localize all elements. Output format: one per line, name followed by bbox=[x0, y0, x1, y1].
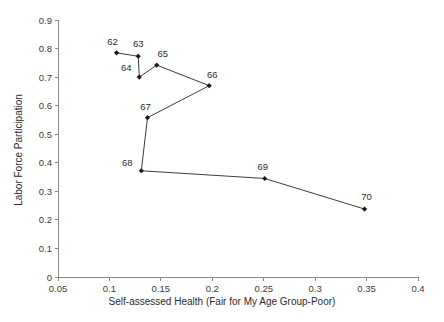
x-axis-title: Self-assessed Health (Fair for My Age Gr… bbox=[109, 296, 336, 307]
data-point-label: 69 bbox=[257, 161, 268, 172]
x-axis: 0.050.10.150.20.250.30.350.4 bbox=[49, 277, 425, 294]
series-line bbox=[117, 53, 365, 209]
y-tick-label: 0.7 bbox=[39, 72, 52, 83]
x-tick-label: 0.2 bbox=[206, 283, 219, 294]
x-tick-label: 0.25 bbox=[254, 283, 273, 294]
chart-figure: 00.10.20.30.40.50.60.70.80.9 0.050.10.15… bbox=[0, 0, 444, 322]
y-tick-label: 0.3 bbox=[39, 186, 52, 197]
data-point-marker bbox=[114, 50, 119, 55]
y-tick-label: 0 bbox=[47, 272, 52, 283]
data-point-label: 70 bbox=[361, 191, 372, 202]
data-point-label: 67 bbox=[140, 101, 151, 112]
y-tick-label: 0.4 bbox=[39, 157, 52, 168]
x-tick-label: 0.4 bbox=[411, 283, 424, 294]
y-tick-label: 0.1 bbox=[39, 243, 52, 254]
x-tick-label: 0.05 bbox=[49, 283, 68, 294]
data-point-label: 68 bbox=[122, 157, 133, 168]
series-labor-force-vs-health bbox=[114, 50, 367, 211]
y-tick-label: 0.6 bbox=[39, 100, 52, 111]
x-tick-label: 0.3 bbox=[309, 283, 322, 294]
data-point-label: 66 bbox=[207, 69, 218, 80]
scatter-line-plot: 00.10.20.30.40.50.60.70.80.9 0.050.10.15… bbox=[0, 0, 444, 322]
data-point-marker bbox=[362, 206, 367, 211]
data-point-marker bbox=[145, 115, 150, 120]
y-axis: 00.10.20.30.40.50.60.70.80.9 bbox=[39, 15, 58, 283]
data-point-label: 65 bbox=[157, 48, 168, 59]
data-point-label: 64 bbox=[121, 62, 132, 73]
y-tick-label: 0.9 bbox=[39, 15, 52, 26]
x-tick-label: 0.15 bbox=[152, 283, 171, 294]
data-point-label: 62 bbox=[107, 36, 118, 47]
y-tick-label: 0.2 bbox=[39, 214, 52, 225]
data-point-label: 63 bbox=[133, 38, 144, 49]
y-tick-label: 0.8 bbox=[39, 43, 52, 54]
data-point-marker bbox=[262, 176, 267, 181]
data-point-marker bbox=[136, 54, 141, 59]
x-tick-label: 0.1 bbox=[103, 283, 116, 294]
y-axis-title: Labor Force Participation bbox=[13, 94, 24, 206]
x-tick-label: 0.35 bbox=[357, 283, 376, 294]
data-point-marker bbox=[207, 83, 212, 88]
y-tick-label: 0.5 bbox=[39, 129, 52, 140]
data-point-marker bbox=[139, 168, 144, 173]
